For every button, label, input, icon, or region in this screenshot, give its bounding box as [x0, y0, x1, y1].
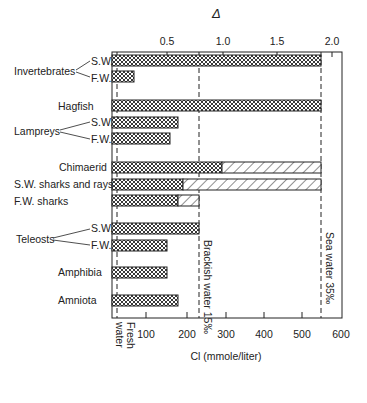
top-tick: 1.0 — [216, 35, 231, 47]
bar-fw-sharks-ext — [178, 195, 199, 206]
label-lampreys: Lampreys — [14, 125, 60, 137]
label-sw: S.W. — [91, 116, 113, 128]
bar-amphibia — [112, 267, 167, 278]
bar-invertebrates-fw — [112, 71, 134, 82]
label-sea-water: Sea water 35‰ — [324, 232, 336, 304]
bottom-tick: 400 — [255, 328, 273, 340]
label-chimaerid: Chimaerid — [59, 161, 107, 173]
label-invertebrates: Invertebrates — [14, 65, 75, 77]
bottom-tick: 500 — [293, 328, 311, 340]
bar-lampreys-sw — [112, 117, 178, 128]
label-fw-sharks: F.W. sharks — [14, 195, 68, 207]
label-amniota: Amniota — [58, 294, 97, 306]
bar-chimaerid-cl — [112, 162, 222, 173]
top-tick: 1.5 — [270, 35, 285, 47]
top-tick: 0.5 — [160, 35, 175, 47]
label-sw-sharks: S.W. sharks and rays — [14, 178, 113, 190]
bar-chimaerid-ext — [222, 162, 321, 173]
label-brackish-water: Brackish water 15‰ — [202, 240, 214, 334]
bottom-tick: 300 — [217, 328, 235, 340]
top-tick: 2.0 — [325, 35, 340, 47]
label-teleosts: Teleosts — [16, 233, 55, 245]
label-sw: S.W. — [91, 222, 113, 234]
label-amphibia: Amphibia — [58, 266, 102, 278]
label-fw: F.W. — [91, 72, 111, 84]
bar-amniota — [112, 295, 178, 306]
bar-sw-sharks-ext — [183, 179, 321, 190]
label-water: water — [114, 322, 126, 348]
bar-invertebrates-sw — [112, 55, 321, 66]
bar-teleosts-sw — [112, 223, 199, 234]
bottom-tick: 200 — [178, 328, 196, 340]
delta-axis-label: Δ — [212, 6, 221, 21]
x-axis-label: Cl (mmole/liter) — [190, 350, 261, 362]
label-fresh: Fresh — [125, 322, 137, 349]
bar-fw-sharks-cl — [112, 195, 178, 206]
label-sw: S.W. — [91, 55, 113, 67]
bottom-tick: 600 — [332, 328, 350, 340]
label-hagfish: Hagfish — [58, 100, 94, 112]
bottom-tick: 100 — [137, 328, 155, 340]
bar-sw-sharks-cl — [112, 179, 183, 190]
bar-lampreys-fw — [112, 133, 170, 144]
label-fw: F.W. — [91, 239, 111, 251]
bar-teleosts-fw — [112, 240, 167, 251]
bar-hagfish — [112, 100, 321, 111]
label-fw: F.W. — [91, 133, 111, 145]
